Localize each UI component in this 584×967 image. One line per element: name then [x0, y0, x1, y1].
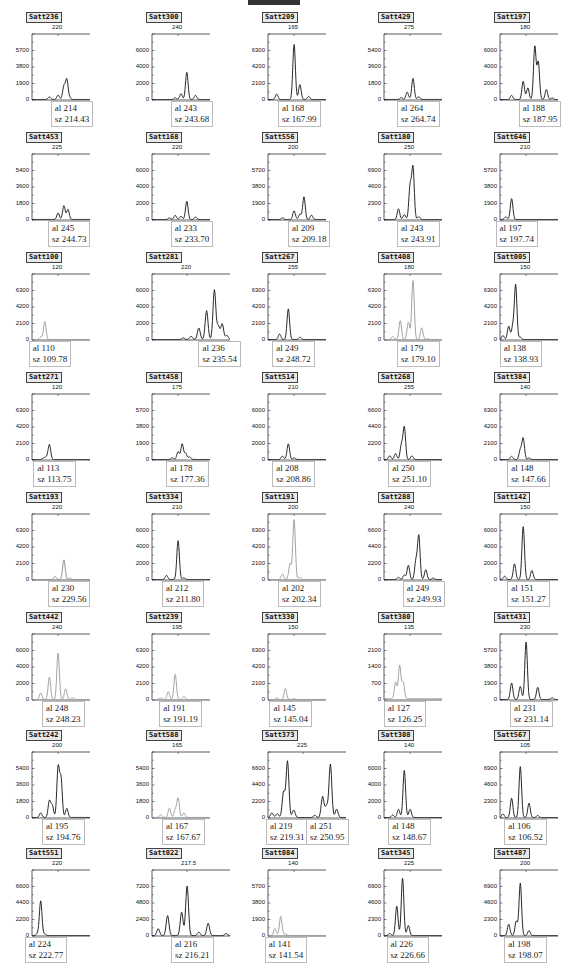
top-size-tick: 225: [297, 742, 307, 748]
y-tick-label: 1900: [241, 916, 265, 922]
y-tick-label: 0: [473, 216, 497, 222]
size-value: sz 226.66: [391, 950, 426, 961]
size-value: sz 222.77: [29, 950, 64, 961]
electropherogram-panel: Satt4292750180036005400al 264sz 264.74: [356, 12, 472, 130]
allele-callout: al 243sz 243.91: [397, 221, 440, 247]
electropherogram-panel: Satt4081800210042006300al 179sz 179.10: [356, 252, 472, 370]
size-value: sz 244.73: [52, 234, 87, 245]
trace-plot: [500, 154, 558, 220]
top-size-tick: 105: [520, 742, 530, 748]
electropherogram-panel: Satt3732250220044006600al 219sz 219.31al…: [240, 730, 356, 848]
y-tick-label: 6000: [125, 527, 149, 533]
y-tick-label: 4400: [357, 423, 381, 429]
marker-label: Satt308: [378, 730, 414, 741]
allele-value: al 231: [514, 703, 549, 714]
size-value: sz 179.10: [401, 354, 436, 365]
top-size-tick: 225: [52, 144, 62, 150]
size-value: sz 219.31: [270, 832, 305, 843]
allele-callout: al 245sz 244.73: [48, 221, 91, 247]
y-tick-label: 6600: [357, 407, 381, 413]
size-value: sz 138.93: [504, 354, 539, 365]
size-value: sz 145.04: [273, 714, 308, 725]
y-tick-label: 6300: [473, 287, 497, 293]
size-value: sz 191.19: [163, 714, 198, 725]
trace-plot: [268, 34, 326, 100]
y-tick-label: 0: [357, 336, 381, 342]
plot-area: [384, 752, 442, 818]
size-value: sz 148.67: [392, 832, 427, 843]
top-size-tick: 225: [404, 860, 414, 866]
y-tick-label: 1900: [241, 200, 265, 206]
allele-callout: al 191sz 191.19: [159, 701, 202, 727]
plot-area: [152, 514, 210, 580]
top-size-tick: 150: [288, 624, 298, 630]
y-tick-label: 2100: [125, 680, 149, 686]
allele-value: al 212: [166, 583, 200, 594]
plot-area: [500, 514, 558, 580]
electropherogram-panel: Satt4532250180036005400al 245sz 244.73: [4, 132, 120, 250]
allele-value: al 197: [500, 223, 535, 234]
electropherogram-panel: Satt5512200220044006600al 224sz 222.77: [4, 848, 120, 966]
trace-plot: [32, 274, 90, 340]
electropherogram-panel: Satt5671050230046006900al 106sz 106.52: [472, 730, 584, 848]
plot-area: [152, 274, 230, 340]
electropherogram-panel: Satt2812200200040006000al 236sz 235.54: [124, 252, 240, 370]
y-tick-label: 2100: [357, 320, 381, 326]
top-size-tick: 220: [181, 264, 191, 270]
allele-callout: al 195sz 194.76: [42, 819, 85, 845]
plot-area: [384, 154, 442, 220]
y-tick-label: 5700: [241, 883, 265, 889]
allele-callout: al 106sz 106.52: [504, 819, 547, 845]
allele-callout: al 264sz 264.74: [397, 101, 440, 127]
marker-label: Satt193: [26, 492, 62, 503]
allele-callout: al 138sz 138.93: [500, 341, 543, 367]
y-tick-label: 4000: [125, 543, 149, 549]
plot-area: [384, 274, 442, 340]
marker-label: Satt551: [26, 848, 62, 859]
y-tick-label: 3600: [5, 781, 29, 787]
trace-plot: [32, 870, 90, 936]
trace-plot: [500, 394, 558, 460]
marker-label: Satt271: [26, 372, 62, 383]
y-tick-label: 2100: [241, 80, 265, 86]
marker-label: Satt300: [146, 12, 182, 23]
y-tick-label: 0: [357, 932, 381, 938]
y-tick-label: 0: [241, 336, 265, 342]
allele-callout: al 168sz 167.99: [278, 101, 321, 127]
y-tick-label: 700: [357, 680, 381, 686]
y-tick-label: 2200: [241, 798, 265, 804]
y-tick-label: 0: [473, 932, 497, 938]
allele-callout: al 145sz 145.04: [269, 701, 312, 727]
marker-label: Satt556: [262, 132, 298, 143]
y-tick-label: 1800: [5, 200, 29, 206]
top-size-tick: 240: [172, 24, 182, 30]
allele-callout: al 202sz 202.34: [278, 581, 321, 607]
marker-label: Satt267: [262, 252, 298, 263]
electropherogram-panel: Satt022217.50240048007200al 216sz 216.21: [124, 848, 240, 966]
y-tick-label: 2200: [5, 916, 29, 922]
allele-value: al 214: [55, 103, 90, 114]
allele-value: al 243: [175, 103, 210, 114]
size-value: sz 208.86: [276, 474, 311, 485]
y-tick-label: 2000: [473, 80, 497, 86]
plot-area: [152, 634, 210, 700]
size-value: sz 197.74: [500, 234, 535, 245]
allele-callout: al 216sz 216.21: [171, 937, 214, 963]
marker-label: Satt514: [262, 372, 298, 383]
marker-label: Satt209: [262, 12, 298, 23]
plot-area: [32, 394, 90, 460]
y-tick-label: 4000: [241, 423, 265, 429]
electropherogram-panel: Satt1421500200040006000al 151sz 151.27: [472, 492, 584, 610]
y-tick-label: 0: [241, 96, 265, 102]
y-tick-label: 0: [5, 456, 29, 462]
allele-value: al 226: [391, 939, 426, 950]
allele-callout: al 248sz 248.23: [42, 701, 85, 727]
allele-value: al 179: [401, 343, 436, 354]
y-tick-label: 4000: [473, 543, 497, 549]
y-tick-label: 0: [357, 814, 381, 820]
y-tick-label: 5700: [5, 47, 29, 53]
y-tick-label: 6600: [241, 765, 265, 771]
y-tick-label: 6900: [473, 883, 497, 889]
y-tick-label: 0: [473, 814, 497, 820]
plot-area: [268, 752, 346, 818]
